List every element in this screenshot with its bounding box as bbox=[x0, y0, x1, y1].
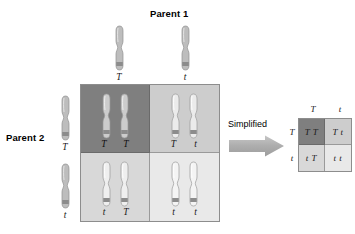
chromosome-pair bbox=[150, 161, 219, 207]
punnett-square-diagram: Parent 1 T t Parent 2 T bbox=[0, 0, 355, 234]
punnett-quadrant-bottom-right[interactable]: t t bbox=[150, 153, 219, 221]
small-grid-column-header: T bbox=[308, 104, 318, 114]
punnett-quadrant-top-right[interactable]: T t bbox=[150, 85, 219, 153]
quadrant-allele-left: t bbox=[170, 207, 178, 217]
punnett-quadrant-bottom-left[interactable]: t T bbox=[81, 153, 150, 221]
quadrant-allele-left: t bbox=[100, 207, 108, 217]
simplified-cell-top-right[interactable]: T t bbox=[325, 119, 351, 145]
simplified-cell-bottom-right[interactable]: t t bbox=[325, 145, 351, 171]
punnett-quadrant-top-left[interactable]: T T bbox=[81, 85, 150, 153]
simplified-punnett-grid: T T T t t T t t bbox=[298, 118, 352, 172]
parent1-gamete-allele: T bbox=[114, 72, 124, 82]
chromosome-icon bbox=[61, 95, 70, 141]
detailed-punnett-grid: T T bbox=[80, 84, 220, 222]
simplified-label: Simplified bbox=[228, 119, 267, 129]
chromosome-icon bbox=[120, 161, 129, 207]
small-grid-row-header: t bbox=[287, 153, 297, 163]
quadrant-allele-labels: T T bbox=[81, 139, 149, 149]
chromosome-icon bbox=[189, 93, 198, 139]
chromosome-icon bbox=[171, 93, 180, 139]
quadrant-allele-right: t bbox=[192, 207, 200, 217]
parent2-gamete-allele: T bbox=[60, 142, 70, 152]
chromosome-icon bbox=[61, 163, 70, 209]
quadrant-allele-labels: t t bbox=[150, 207, 219, 217]
chromosome-icon bbox=[120, 93, 129, 139]
small-grid-row-header: T bbox=[287, 127, 297, 137]
simplified-cell-bottom-left[interactable]: t T bbox=[299, 145, 325, 171]
small-grid-column-header: t bbox=[335, 104, 345, 114]
quadrant-allele-left: T bbox=[170, 139, 178, 149]
simplified-cell-top-left[interactable]: T T bbox=[299, 119, 325, 145]
right-arrow-icon bbox=[229, 135, 285, 157]
parent2-gamete-allele: t bbox=[60, 210, 70, 220]
chromosome-icon bbox=[102, 93, 111, 139]
chromosome-pair bbox=[81, 93, 149, 139]
quadrant-allele-labels: T t bbox=[150, 139, 219, 149]
quadrant-allele-labels: t T bbox=[81, 207, 149, 217]
parent1-title: Parent 1 bbox=[150, 8, 188, 19]
chromosome-icon bbox=[115, 25, 124, 71]
quadrant-allele-right: T bbox=[122, 139, 130, 149]
quadrant-allele-right: t bbox=[192, 139, 200, 149]
quadrant-allele-right: T bbox=[122, 207, 130, 217]
chromosome-icon bbox=[102, 161, 111, 207]
chromosome-pair bbox=[81, 161, 149, 207]
chromosome-pair bbox=[150, 93, 219, 139]
chromosome-icon bbox=[181, 25, 190, 71]
parent1-gamete-allele: t bbox=[180, 72, 190, 82]
chromosome-icon bbox=[189, 161, 198, 207]
parent2-title: Parent 2 bbox=[6, 132, 44, 143]
quadrant-allele-left: T bbox=[100, 139, 108, 149]
chromosome-icon bbox=[171, 161, 180, 207]
